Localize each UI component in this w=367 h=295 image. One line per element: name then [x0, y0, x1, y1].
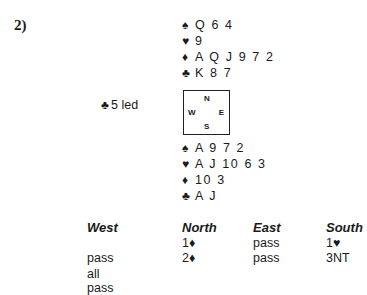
compass-north: N — [204, 94, 210, 103]
heart-icon: ♥ — [182, 33, 195, 49]
header-south: South — [326, 220, 363, 235]
compass-south: S — [204, 122, 209, 131]
bid-west: pass — [87, 251, 113, 265]
compass-east: E — [219, 108, 224, 117]
club-icon: ♣ — [182, 65, 195, 81]
bid-south: 3NT — [326, 251, 350, 265]
north-diamonds: ♦A Q J 9 7 2 — [182, 49, 274, 65]
south-hand: ♠A 9 7 2 ♥A J 10 6 3 ♦10 3 ♣A J — [182, 140, 267, 204]
bid-south: 1♥ — [326, 236, 340, 250]
opening-lead: ♣5 led — [101, 98, 138, 112]
club-icon: ♣ — [182, 188, 195, 204]
bid-east: pass — [253, 251, 279, 265]
south-diamonds: ♦10 3 — [182, 172, 267, 188]
north-hearts: ♥9 — [182, 33, 274, 49]
header-north: North — [182, 220, 217, 235]
spade-icon: ♠ — [182, 17, 195, 33]
north-hand: ♠Q 6 4 ♥9 ♦A Q J 9 7 2 ♣K 8 7 — [182, 17, 274, 81]
club-icon: ♣ — [101, 98, 111, 112]
north-spades: ♠Q 6 4 — [182, 17, 274, 33]
diamond-icon: ♦ — [182, 172, 195, 188]
header-west: West — [87, 220, 118, 235]
compass-west: W — [188, 108, 196, 117]
header-east: East — [253, 220, 280, 235]
south-clubs: ♣A J — [182, 188, 267, 204]
compass-box: N W E S — [183, 90, 230, 135]
diamond-icon: ♦ — [182, 49, 195, 65]
heart-icon: ♥ — [182, 156, 195, 172]
spade-icon: ♠ — [182, 140, 195, 156]
bid-north: 2♦ — [182, 251, 195, 265]
bid-west: all pass — [87, 267, 113, 295]
problem-number: 2) — [14, 17, 27, 34]
south-hearts: ♥A J 10 6 3 — [182, 156, 267, 172]
north-clubs: ♣K 8 7 — [182, 65, 274, 81]
bid-east: pass — [253, 236, 279, 250]
south-spades: ♠A 9 7 2 — [182, 140, 267, 156]
bid-north: 1♦ — [182, 236, 195, 250]
